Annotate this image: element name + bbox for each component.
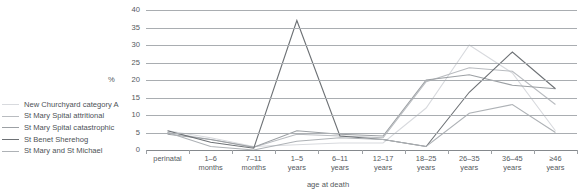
gridline — [146, 80, 577, 81]
x-axis-tick-label: 18–25years — [405, 155, 448, 172]
x-axis-tick — [318, 150, 319, 154]
legend-item-label: New Churchyard category A — [24, 101, 119, 109]
legend-item-label: St Mary Spital catastrophic — [24, 124, 114, 132]
y-axis-tick-label: 10 — [120, 111, 140, 119]
x-axis-tick-label: 1–6months — [189, 155, 232, 172]
plot-area — [146, 10, 577, 150]
legend-swatch — [2, 151, 19, 152]
x-axis-tick — [577, 150, 578, 154]
x-axis-title: age at death — [0, 180, 584, 189]
x-axis-tick — [275, 150, 276, 154]
y-axis-tick-label: 30 — [120, 41, 140, 49]
gridline — [146, 63, 577, 64]
gridline — [146, 45, 577, 46]
x-axis-tick-label: 26–35years — [448, 155, 491, 172]
gridline — [146, 98, 577, 99]
x-axis-title-text: age at death — [307, 180, 349, 189]
legend-swatch — [2, 116, 19, 117]
legend-swatch — [2, 127, 19, 128]
y-axis-tick-label: 15 — [120, 94, 140, 102]
series-line — [168, 21, 556, 149]
y-axis-tick-label: 25 — [120, 59, 140, 67]
legend-item-label: St Benet Sherehog — [24, 136, 88, 144]
legend-item-label: St Mary Spital attritional — [24, 112, 104, 120]
x-axis-tick-label: perinatal — [146, 155, 189, 164]
x-axis-tick-label: 36–45years — [491, 155, 534, 172]
x-axis-tick-label: ≥46years — [534, 155, 577, 172]
legend-swatch — [2, 139, 19, 140]
x-axis-tick-label: 7–11months — [232, 155, 275, 172]
y-axis-tick-label: 40 — [120, 6, 140, 14]
chart-container: New Churchyard category ASt Mary Spital … — [0, 0, 584, 195]
x-axis-tick-label: 6–11years — [318, 155, 361, 172]
legend-item-label: St Mary and St Michael — [24, 147, 103, 155]
x-axis-tick — [491, 150, 492, 154]
x-axis-tick-label: 1–5years — [275, 155, 318, 172]
x-axis-tick — [362, 150, 363, 154]
y-axis-tick-label: 35 — [120, 24, 140, 32]
gridline — [146, 133, 577, 134]
y-axis-tick-label: 5 — [120, 129, 140, 137]
y-axis-tick-label: 0 — [120, 146, 140, 154]
x-axis-tick-label: 12–17years — [362, 155, 405, 172]
y-axis-tick-label: 20 — [120, 76, 140, 84]
x-axis-tick — [146, 150, 147, 154]
x-axis-tick — [232, 150, 233, 154]
y-axis-unit-label: % — [108, 76, 115, 84]
gridline — [146, 28, 577, 29]
legend-swatch — [2, 104, 19, 105]
series-line — [168, 45, 556, 147]
x-axis-tick — [534, 150, 535, 154]
x-axis-tick — [405, 150, 406, 154]
gridline — [146, 115, 577, 116]
x-axis-tick — [448, 150, 449, 154]
x-axis-tick — [189, 150, 190, 154]
gridline — [146, 10, 577, 11]
